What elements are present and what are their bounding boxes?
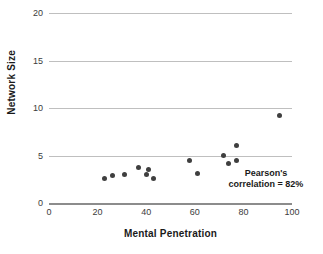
x-axis-title: Mental Penetration [49, 228, 292, 239]
scatter-chart-figure: 05101520 020406080100 Network Size Menta… [0, 0, 323, 254]
y-tick-label: 10 [33, 103, 43, 113]
data-point [144, 172, 149, 177]
data-point [136, 165, 141, 170]
annotation-line-1: Pearson's [214, 168, 318, 179]
y-tick-label: 0 [38, 198, 43, 208]
x-tick-label: 20 [93, 207, 103, 217]
x-tick-label: 80 [238, 207, 248, 217]
data-point [102, 176, 107, 181]
gridline: 20 [49, 13, 292, 14]
data-point [234, 158, 239, 163]
data-point [122, 172, 127, 177]
data-point [187, 158, 192, 163]
data-point [226, 161, 231, 166]
data-point [110, 173, 115, 178]
x-axis-line: 0 [49, 203, 292, 205]
x-tick-label: 0 [46, 207, 51, 217]
pearson-correlation-annotation: Pearson's correlation = 82% [214, 168, 318, 190]
gridline: 15 [49, 61, 292, 62]
data-point [151, 176, 156, 181]
data-point [146, 167, 151, 172]
data-point [277, 113, 282, 118]
gridline: 5 [49, 156, 292, 157]
x-tick-label: 60 [190, 207, 200, 217]
gridline: 10 [49, 108, 292, 109]
data-point [221, 153, 226, 158]
data-point [195, 171, 200, 176]
y-axis-title: Network Size [6, 50, 20, 115]
y-tick-label: 5 [38, 151, 43, 161]
x-tick-label: 100 [284, 207, 299, 217]
x-tick-label: 40 [141, 207, 151, 217]
y-tick-label: 20 [33, 8, 43, 18]
data-point [234, 143, 239, 148]
annotation-line-2: correlation = 82% [214, 179, 318, 190]
y-tick-label: 15 [33, 56, 43, 66]
